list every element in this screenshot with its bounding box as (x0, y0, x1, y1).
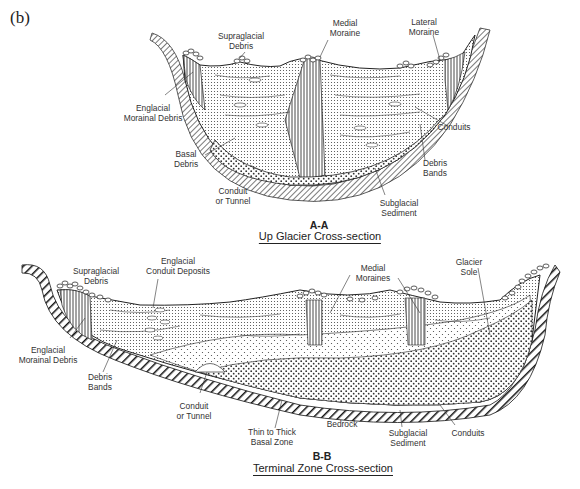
label-a-medial-moraine: MedialMoraine (330, 19, 360, 38)
panel-label: (b) (10, 8, 30, 28)
label-a-basal-debris: BasalDebris (174, 150, 198, 169)
label-b-supraglacial-debris: SupraglacialDebris (73, 267, 119, 286)
label-a-conduits: Conduits (437, 123, 470, 133)
glacier-diagram (0, 0, 580, 489)
label-b-bedrock: Bedrock (327, 420, 358, 430)
label-b-conduit-or-tunnel: Conduitor Tunnel (177, 402, 212, 421)
label-b-englacial-morainal-debris: EnglacialMorainal Debris (19, 346, 78, 365)
label-a-conduit-or-tunnel: Conduitor Tunnel (216, 187, 251, 206)
label-a-lateral-moraine: LateralMoraine (409, 18, 439, 37)
label-b-subglacial-sediment: SubglacialSediment (389, 429, 428, 448)
label-b-conduits: Conduits (451, 429, 484, 439)
label-a-subglacial-sediment: SubglacialSediment (380, 199, 419, 218)
section-id-b-b: B-B (313, 450, 332, 462)
label-b-englacial-conduit-deposits: EnglacialConduit Deposits (146, 257, 210, 276)
section-title-a-a: Up Glacier Cross-section (259, 230, 381, 244)
label-b-thin-to-thick-basal-zone: Thin to ThickBasal Zone (248, 428, 296, 447)
label-b-glacier-sole: GlacierSole (456, 258, 483, 277)
section-b-b-drawing (22, 264, 560, 428)
label-a-supraglacial-debris: SupraglacialDebris (218, 32, 264, 51)
label-b-debris-bands: DebrisBands (88, 373, 112, 392)
section-title-b-b: Terminal Zone Cross-section (253, 462, 393, 476)
label-b-medial-moraines: MedialMoraines (356, 264, 390, 283)
label-a-debris-bands: DebrisBands (423, 159, 447, 178)
label-a-englacial-morainal-debris: EnglacialMorainal Debris (124, 104, 183, 123)
